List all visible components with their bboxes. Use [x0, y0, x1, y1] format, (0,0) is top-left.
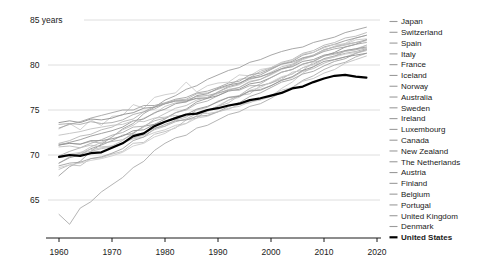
legend-label-finland: Finland [401, 179, 427, 188]
legend-label-japan: Japan [401, 17, 423, 26]
legend-label-ireland: Ireland [401, 114, 425, 123]
life-expectancy-chart: 85 years80757065196019701980199020002010… [0, 0, 495, 277]
plot-svg: 85 years80757065196019701980199020002010… [0, 0, 495, 277]
legend-label-new-zealand: New Zealand [401, 147, 448, 156]
x-tick-label-1970: 1970 [103, 247, 122, 257]
x-tick-label-1980: 1980 [156, 247, 175, 257]
x-tick-label-2000: 2000 [262, 247, 281, 257]
y-axis-label-80: 80 [30, 60, 40, 70]
y-axis-label-75: 75 [30, 105, 40, 115]
x-tick-label-1990: 1990 [209, 247, 228, 257]
legend-label-switzerland: Switzerland [401, 28, 442, 37]
legend-label-austria: Austria [401, 168, 426, 177]
legend-label-spain: Spain [401, 39, 421, 48]
legend-label-luxembourg: Luxembourg [401, 125, 445, 134]
legend-label-canada: Canada [401, 136, 430, 145]
series-line-united-kingdom [59, 53, 366, 145]
x-tick-label-2020: 2020 [368, 247, 387, 257]
legend-label-belgium: Belgium [401, 190, 430, 199]
legend-label-united-kingdom: United Kingdom [401, 212, 458, 221]
series-line-france [59, 40, 366, 156]
series-line-italy [59, 35, 366, 163]
legend-label-iceland: Iceland [401, 71, 427, 80]
series-line-sweden [59, 43, 366, 129]
x-tick-label-1960: 1960 [50, 247, 69, 257]
x-tick-label-2010: 2010 [315, 247, 334, 257]
legend-label-italy: Italy [401, 50, 416, 59]
legend-label-denmark: Denmark [401, 222, 434, 231]
y-axis-label-85: 85 years [30, 15, 63, 25]
legend-label-sweden: Sweden [401, 104, 430, 113]
y-axis-label-65: 65 [30, 195, 40, 205]
legend-label-portugal: Portugal [401, 201, 431, 210]
legend-label-norway: Norway [401, 82, 428, 91]
y-axis-label-70: 70 [30, 150, 40, 160]
series-line-united-states [59, 75, 366, 157]
legend-label-australia: Australia [401, 93, 433, 102]
legend-label-united-states: United States [401, 233, 453, 242]
legend-label-france: France [401, 60, 426, 69]
legend-label-the-netherlands: The Netherlands [401, 158, 460, 167]
